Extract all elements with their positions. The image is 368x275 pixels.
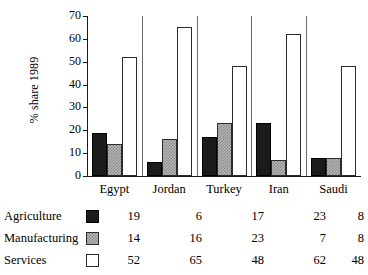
x-label-jordan: Jordan (142, 181, 197, 197)
y-tick-mark (83, 176, 87, 177)
value-iran-manufacturing: 7 (286, 227, 326, 249)
y-tick-mark (83, 39, 87, 40)
value-saudi-agriculture: 8 (324, 205, 364, 227)
y-tick-mark (83, 107, 87, 108)
x-label-turkey: Turkey (197, 181, 252, 197)
x-label-iran: Iran (251, 181, 306, 197)
value-iran-agriculture: 23 (286, 205, 326, 227)
value-turkey-manufacturing: 23 (224, 227, 264, 249)
value-turkey-agriculture: 17 (224, 205, 264, 227)
bar-saudi-services (341, 66, 356, 176)
y-tick-10: 10 (87, 153, 88, 154)
value-turkey-services: 48 (224, 249, 264, 271)
legend-swatch-services-icon (86, 254, 99, 267)
y-tick-30: 30 (87, 107, 88, 108)
y-tick-label: 30 (69, 99, 81, 114)
bar-egypt-agriculture (92, 133, 107, 176)
value-jordan-services: 65 (162, 249, 202, 271)
group-separator (197, 16, 198, 176)
bar-jordan-agriculture (147, 162, 162, 176)
bar-iran-services (286, 34, 301, 176)
value-egypt-agriculture: 19 (100, 205, 140, 227)
y-tick-label: 50 (69, 54, 81, 69)
value-saudi-manufacturing: 8 (324, 227, 364, 249)
bar-turkey-services (232, 66, 247, 176)
chart-figure: % share 1989 010203040506070 EgyptJordan… (0, 0, 368, 275)
y-tick-50: 50 (87, 62, 88, 63)
legend-row-agriculture: Agriculture19617238 (0, 205, 368, 227)
legend-label-manufacturing: Manufacturing (4, 227, 78, 249)
y-tick-20: 20 (87, 130, 88, 131)
bar-egypt-services (122, 57, 137, 176)
group-separator (142, 16, 143, 176)
y-tick-70: 70 (87, 16, 88, 17)
legend-row-manufacturing: Manufacturing14162378 (0, 227, 368, 249)
bar-saudi-manufacturing (326, 158, 341, 176)
x-label-egypt: Egypt (87, 181, 142, 197)
y-axis-title: % share 1989 (27, 20, 41, 160)
bar-jordan-manufacturing (162, 139, 177, 176)
y-tick-label: 20 (69, 122, 81, 137)
value-iran-services: 62 (286, 249, 326, 271)
bar-iran-agriculture (256, 123, 271, 176)
y-tick-label: 60 (69, 31, 81, 46)
x-axis-line (83, 176, 361, 177)
bar-jordan-services (177, 27, 192, 176)
y-tick-0: 0 (87, 176, 88, 177)
y-tick-label: 40 (69, 77, 81, 92)
value-saudi-services: 48 (324, 249, 364, 271)
y-tick-mark (83, 62, 87, 63)
y-tick-mark (83, 153, 87, 154)
y-tick-40: 40 (87, 85, 88, 86)
bar-turkey-manufacturing (217, 123, 232, 176)
y-tick-mark (83, 85, 87, 86)
legend-swatch-agriculture-icon (86, 210, 99, 223)
x-label-saudi: Saudi (306, 181, 361, 197)
group-separator (251, 16, 252, 176)
legend-data-table: Agriculture19617238Manufacturing14162378… (0, 205, 368, 271)
bar-saudi-agriculture (311, 158, 326, 176)
bar-iran-manufacturing (271, 160, 286, 176)
y-tick-label: 0 (75, 168, 81, 183)
value-jordan-manufacturing: 16 (162, 227, 202, 249)
legend-label-services: Services (4, 249, 46, 271)
plot-area: 010203040506070 EgyptJordanTurkeyIranSau… (87, 16, 361, 176)
y-tick-label: 10 (69, 145, 81, 160)
y-tick-label: 70 (69, 8, 81, 23)
value-jordan-agriculture: 6 (162, 205, 202, 227)
y-tick-60: 60 (87, 39, 88, 40)
group-separator (306, 16, 307, 176)
legend-label-agriculture: Agriculture (4, 205, 62, 227)
bar-egypt-manufacturing (107, 144, 122, 176)
bar-turkey-agriculture (202, 137, 217, 176)
legend-row-services: Services5265486248 (0, 249, 368, 271)
value-egypt-services: 52 (100, 249, 140, 271)
value-egypt-manufacturing: 14 (100, 227, 140, 249)
y-tick-mark (83, 130, 87, 131)
y-axis-line (87, 16, 88, 176)
legend-swatch-manufacturing-icon (86, 232, 99, 245)
y-tick-mark (83, 16, 87, 17)
